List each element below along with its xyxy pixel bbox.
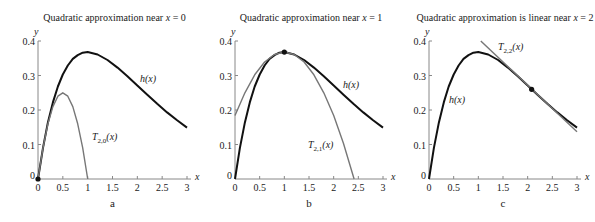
y-tick-label: 0 xyxy=(227,170,232,181)
x-tick-label: 1 xyxy=(476,182,481,193)
x-tick-label: 2.5 xyxy=(546,182,559,193)
x-tick-label: 2 xyxy=(525,182,530,193)
y-tick-label: 0.3 xyxy=(23,71,36,82)
x-tick-label: 2.5 xyxy=(156,182,169,193)
chart-title: Quadratic approximation near x = 1 xyxy=(240,12,383,23)
y-tick-label: 0.3 xyxy=(414,71,427,82)
taylor-curve xyxy=(38,93,88,179)
x-tick-label: 1 xyxy=(85,182,90,193)
x-axis-label: x xyxy=(390,171,396,182)
x-axis-label: x xyxy=(194,171,200,182)
x-tick-label: 2 xyxy=(331,182,336,193)
x-tick-label: 1.5 xyxy=(497,182,510,193)
panel-letter: a xyxy=(110,197,115,209)
y-tick-label: 0.4 xyxy=(220,36,233,47)
taylor-curve-label: T2,2(x) xyxy=(498,41,524,55)
taylor-curve xyxy=(481,41,577,132)
x-tick-label: 0 xyxy=(36,182,41,193)
chart-title: Quadratic approximation is linear near x… xyxy=(417,12,594,23)
expansion-point-marker xyxy=(282,49,287,54)
y-tick-label: 0.4 xyxy=(23,36,36,47)
x-axis-label: x xyxy=(584,171,590,182)
y-tick-label: 0.1 xyxy=(23,140,36,151)
x-tick-label: 3 xyxy=(575,182,580,193)
x-tick-label: 1.5 xyxy=(106,182,119,193)
x-tick-label: 0.5 xyxy=(447,182,460,193)
chart-title: Quadratic approximation near x = 0 xyxy=(43,12,186,23)
x-tick-label: 3 xyxy=(381,182,386,193)
h-curve-label: h(x) xyxy=(343,79,360,91)
taylor-curve-label: T2,1(x) xyxy=(308,139,334,153)
x-tick-label: 3 xyxy=(185,182,190,193)
x-tick-label: 2 xyxy=(135,182,140,193)
h-curve-label: h(x) xyxy=(449,94,466,106)
taylor-curve-label: T2,0(x) xyxy=(92,131,118,145)
expansion-point-marker xyxy=(35,176,40,181)
x-tick-label: 1 xyxy=(282,182,287,193)
panel-letter: c xyxy=(501,197,506,209)
y-tick-label: 0 xyxy=(30,170,35,181)
y-tick-label: 0.1 xyxy=(414,140,427,151)
x-tick-label: 2.5 xyxy=(352,182,365,193)
x-tick-label: 0 xyxy=(427,182,432,193)
panel-a: Quadratic approximation near x = 0xy00.5… xyxy=(23,12,201,209)
y-tick-label: 0.3 xyxy=(220,71,233,82)
y-tick-label: 0 xyxy=(421,170,426,181)
figure: Quadratic approximation near x = 0xy00.5… xyxy=(0,0,595,222)
panel-c: Quadratic approximation is linear near x… xyxy=(414,12,594,209)
panel-letter: b xyxy=(306,197,312,209)
panel-b: Quadratic approximation near x = 1xy00.5… xyxy=(220,12,397,209)
x-tick-label: 0.5 xyxy=(253,182,266,193)
h-curve-label: h(x) xyxy=(140,73,157,85)
x-tick-label: 0 xyxy=(233,182,238,193)
expansion-point-marker xyxy=(529,87,534,92)
y-tick-label: 0.2 xyxy=(23,105,36,116)
x-tick-label: 1.5 xyxy=(303,182,316,193)
h-curve xyxy=(38,52,187,179)
y-tick-label: 0.2 xyxy=(414,105,427,116)
x-tick-label: 0.5 xyxy=(57,182,70,193)
h-curve xyxy=(429,52,577,179)
y-tick-label: 0.1 xyxy=(220,140,233,151)
taylor-curve xyxy=(235,52,354,179)
y-tick-label: 0.4 xyxy=(414,36,427,47)
y-tick-label: 0.2 xyxy=(220,105,233,116)
